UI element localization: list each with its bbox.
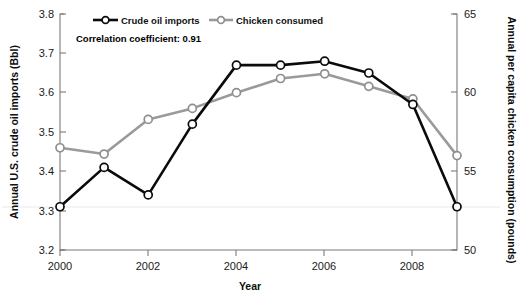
right-axis-title: Annual per capita chicken consumption (p… xyxy=(506,17,518,264)
chicken-consumed-point-2000 xyxy=(56,144,64,152)
crude-oil-imports-point-2007 xyxy=(365,69,373,77)
chicken-consumed-point-2004 xyxy=(232,89,240,97)
left-tick-3-7: 3.7 xyxy=(39,47,54,59)
legend-item-crude-oil-imports[interactable]: Crude oil imports xyxy=(93,15,200,26)
chart-container: 3.8 3.7 3.6 3.5 3.4 3.3 3.2 Annual U.S. … xyxy=(0,0,524,296)
dual-axis-line-chart: 3.8 3.7 3.6 3.5 3.4 3.3 3.2 Annual U.S. … xyxy=(0,0,524,296)
left-tick-3-4: 3.4 xyxy=(39,165,54,177)
legend-marker-secondary-icon xyxy=(218,17,225,24)
left-tick-3-6: 3.6 xyxy=(39,86,54,98)
x-tick-2006: 2006 xyxy=(312,260,336,272)
left-axis-title: Annual U.S. crude oil imports (Bbl) xyxy=(8,45,20,219)
crude-oil-imports-point-2000 xyxy=(56,203,64,211)
right-tick-55: 55 xyxy=(464,165,476,177)
left-tick-3-5: 3.5 xyxy=(39,126,54,138)
left-tick-3-3: 3.3 xyxy=(39,205,54,217)
legend-marker-primary-icon xyxy=(102,17,109,24)
crude-oil-imports-point-2006 xyxy=(321,57,329,65)
correlation-coefficient-annotation: Correlation coefficient: 0.91 xyxy=(76,33,202,44)
x-axis: 2000 2002 2004 2006 2008 Year xyxy=(48,250,457,292)
series-crude-oil-imports xyxy=(56,57,461,211)
chicken-consumed-point-2009 xyxy=(453,152,461,160)
left-axis: 3.8 3.7 3.6 3.5 3.4 3.3 3.2 Annual U.S. … xyxy=(8,8,66,256)
left-tick-3-8: 3.8 xyxy=(39,8,54,20)
legend-label-chicken-consumed: Chicken consumed xyxy=(236,15,323,26)
crude-oil-imports-point-2002 xyxy=(144,191,152,199)
x-tick-2004: 2004 xyxy=(224,260,248,272)
chart-legend: Crude oil imports Chicken consumed xyxy=(93,15,323,26)
chicken-consumed-point-2006 xyxy=(321,70,329,78)
right-tick-60: 60 xyxy=(464,86,476,98)
crude-oil-imports-point-2004 xyxy=(232,61,240,69)
x-tick-2008: 2008 xyxy=(400,260,424,272)
right-tick-65: 65 xyxy=(464,8,476,20)
chicken-consumed-point-2003 xyxy=(188,104,196,112)
x-tick-2000: 2000 xyxy=(48,260,72,272)
legend-label-crude-oil-imports: Crude oil imports xyxy=(121,15,200,26)
x-tick-2002: 2002 xyxy=(136,260,160,272)
chicken-consumed-point-2005 xyxy=(277,75,285,83)
chicken-consumed-point-2002 xyxy=(144,115,152,123)
x-axis-title: Year xyxy=(239,280,261,292)
right-tick-50: 50 xyxy=(464,244,476,256)
crude-oil-imports-point-2008 xyxy=(409,100,417,108)
crude-oil-imports-point-2003 xyxy=(188,120,196,128)
chicken-consumed-point-2001 xyxy=(100,150,108,158)
crude-oil-imports-point-2005 xyxy=(277,61,285,69)
crude-oil-imports-point-2001 xyxy=(100,163,108,171)
left-tick-3-2: 3.2 xyxy=(39,244,54,256)
right-axis: 65 60 55 50 Annual per capita chicken co… xyxy=(451,8,518,263)
legend-item-chicken-consumed[interactable]: Chicken consumed xyxy=(209,15,323,26)
series-chicken-consumed xyxy=(56,70,461,160)
chicken-consumed-point-2007 xyxy=(365,82,373,90)
crude-oil-imports-point-2009 xyxy=(453,203,461,211)
